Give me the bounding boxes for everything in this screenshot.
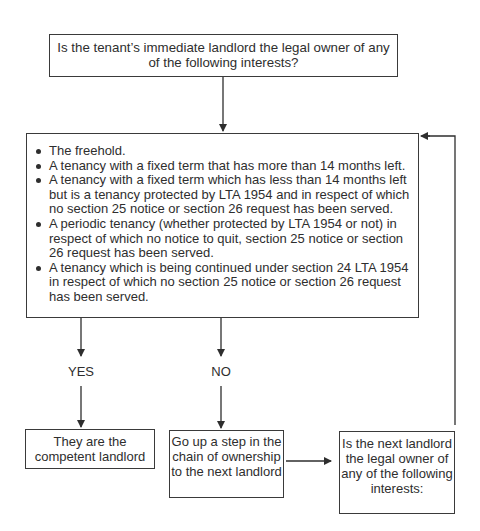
yes-outcome-text: They are the competent landlord	[35, 434, 146, 464]
interests-list: The freehold. A tenancy with a fixed ter…	[27, 144, 412, 305]
initial-question-text: Is the tenant’s immediate landlord the l…	[57, 40, 389, 70]
interests-list-box: The freehold. A tenancy with a fixed ter…	[26, 133, 419, 318]
go-up-chain-box: Go up a step in the chain of ownership t…	[169, 430, 284, 498]
no-label: NO	[191, 364, 251, 379]
yes-label: YES	[51, 364, 111, 379]
interest-item: A tenancy with a fixed term that has mor…	[49, 159, 412, 174]
next-landlord-question-box: Is the next landlord the legal owner of …	[339, 431, 455, 514]
no-outcome-text: Go up a step in the chain of ownership t…	[171, 434, 282, 479]
initial-question-box: Is the tenant’s immediate landlord the l…	[49, 34, 398, 77]
next-question-text: Is the next landlord the legal owner of …	[341, 436, 452, 496]
interest-item: The freehold.	[49, 144, 412, 159]
competent-landlord-box: They are the competent landlord	[25, 429, 155, 469]
interest-item: A tenancy with a fixed term which has le…	[49, 173, 412, 217]
interest-item: A periodic tenancy (whether protected by…	[49, 217, 412, 261]
interest-item: A tenancy which is being continued under…	[49, 261, 412, 305]
